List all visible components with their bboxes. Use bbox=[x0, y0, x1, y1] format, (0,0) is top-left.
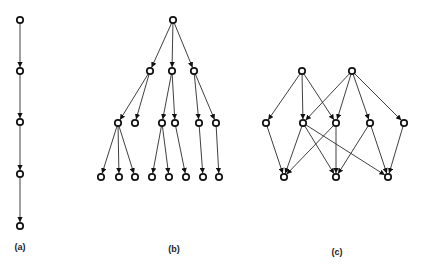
node-circle-icon bbox=[200, 174, 206, 180]
node-circle-icon bbox=[115, 120, 121, 126]
panel-a-chain-graph: (a) bbox=[15, 17, 26, 252]
panel-b-nodes bbox=[98, 17, 222, 180]
node-circle-icon bbox=[333, 174, 339, 180]
node-circle-icon bbox=[300, 120, 306, 126]
node-circle-icon bbox=[166, 174, 172, 180]
node-circle-icon bbox=[132, 174, 138, 180]
node-circle-icon bbox=[149, 174, 155, 180]
edge-n5-to-l7 bbox=[199, 126, 202, 173]
panel-a-label: (a) bbox=[15, 242, 26, 252]
node-circle-icon bbox=[299, 68, 305, 74]
node-circle-icon bbox=[132, 120, 138, 126]
node-circle-icon bbox=[401, 120, 407, 126]
edge-t2-to-c4 bbox=[353, 74, 369, 119]
edge-n4-to-l6 bbox=[176, 126, 186, 173]
edge-t2-to-c2 bbox=[306, 73, 350, 120]
edge-m1-to-n2 bbox=[136, 74, 149, 119]
edge-n3-to-l4 bbox=[153, 126, 162, 173]
edge-n1-to-l3 bbox=[119, 126, 134, 173]
edge-c4-to-b3 bbox=[371, 126, 387, 173]
node-circle-icon bbox=[216, 174, 222, 180]
node-circle-icon bbox=[213, 120, 219, 126]
node-circle-icon bbox=[196, 120, 202, 126]
graph-diagram-canvas: (a) (b) (c) bbox=[0, 0, 424, 269]
edge-c5-to-b3 bbox=[389, 126, 403, 173]
edge-m2-to-n3 bbox=[163, 74, 172, 119]
panel-b-edges bbox=[102, 23, 219, 173]
panel-c-dag-graph: (c) bbox=[263, 68, 407, 257]
edge-t1-to-c1 bbox=[268, 74, 300, 120]
node-circle-icon bbox=[263, 120, 269, 126]
node-circle-icon bbox=[169, 68, 175, 74]
node-circle-icon bbox=[281, 174, 287, 180]
node-circle-icon bbox=[191, 68, 197, 74]
edge-t1-to-c3 bbox=[304, 74, 334, 120]
node-circle-icon bbox=[349, 68, 355, 74]
node-circle-icon bbox=[17, 119, 23, 125]
panel-c-label: (c) bbox=[332, 247, 343, 257]
panel-c-nodes bbox=[263, 68, 407, 180]
node-circle-icon bbox=[147, 68, 153, 74]
node-circle-icon bbox=[367, 120, 373, 126]
edge-r-to-m3 bbox=[174, 23, 192, 68]
node-circle-icon bbox=[17, 68, 23, 74]
edge-c2-to-b1 bbox=[285, 126, 302, 173]
node-circle-icon bbox=[17, 223, 23, 229]
node-circle-icon bbox=[17, 17, 23, 23]
edge-n1-to-l2 bbox=[118, 126, 119, 173]
edge-n3-to-l5 bbox=[162, 126, 168, 173]
node-circle-icon bbox=[159, 120, 165, 126]
node-circle-icon bbox=[17, 171, 23, 177]
node-circle-icon bbox=[170, 17, 176, 23]
node-circle-icon bbox=[183, 174, 189, 180]
node-circle-icon bbox=[116, 174, 122, 180]
node-circle-icon bbox=[98, 174, 104, 180]
edge-r-to-m2 bbox=[172, 23, 173, 67]
edge-m1-to-n1 bbox=[120, 74, 148, 120]
edge-m2-to-n4 bbox=[172, 74, 175, 119]
edge-n1-to-l1 bbox=[102, 126, 117, 173]
edge-t2-to-c3 bbox=[337, 74, 351, 119]
panel-b-label: (b) bbox=[168, 244, 180, 254]
edge-c4-to-b2 bbox=[338, 126, 368, 174]
edge-n6-to-l8 bbox=[216, 126, 219, 173]
edge-t1-to-c2 bbox=[302, 74, 303, 119]
node-circle-icon bbox=[385, 174, 391, 180]
panel-b-tree-graph: (b) bbox=[98, 17, 222, 254]
node-circle-icon bbox=[172, 120, 178, 126]
node-circle-icon bbox=[333, 120, 339, 126]
edge-c1-to-b1 bbox=[267, 126, 283, 173]
edge-r-to-m1 bbox=[152, 23, 172, 68]
